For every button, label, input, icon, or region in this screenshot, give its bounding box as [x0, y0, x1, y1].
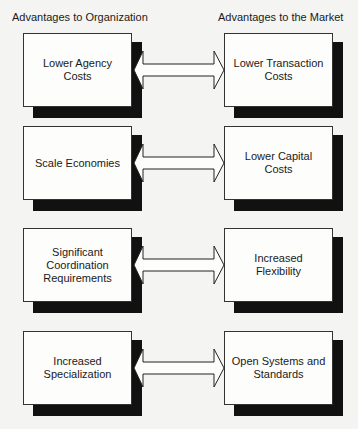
market-advantage-box: Increased Flexibility	[224, 228, 333, 302]
double-arrow-icon	[133, 143, 225, 183]
organization-advantage-box: Increased Specialization	[23, 331, 132, 405]
organization-advantage-box: Scale Economies	[23, 126, 132, 200]
double-arrow-icon	[133, 348, 225, 388]
organization-advantage-box: Lower Agency Costs	[23, 33, 132, 107]
double-arrow-icon	[133, 50, 225, 90]
market-advantage-box: Open Systems and Standards	[224, 331, 333, 405]
double-arrow-icon	[133, 245, 225, 285]
market-advantage-box: Lower Capital Costs	[224, 126, 333, 200]
header-organization: Advantages to Organization	[12, 11, 148, 23]
organization-advantage-box: Significant Coordination Requirements	[23, 228, 132, 302]
market-advantage-box: Lower Transaction Costs	[224, 33, 333, 107]
header-market: Advantages to the Market	[218, 11, 343, 23]
